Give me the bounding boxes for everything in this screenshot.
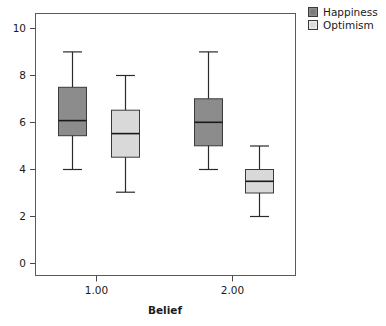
x-axis-tick-labels: 1.00 2.00 xyxy=(85,284,244,296)
chart-canvas: 10 8 6 4 2 0 1.00 2.00 Belief xyxy=(0,0,386,326)
x-tick-label-1: 1.00 xyxy=(85,284,108,296)
legend-swatch-inner-optimism xyxy=(311,23,316,28)
legend-item-optimism[interactable]: Optimism xyxy=(309,19,374,31)
legend: Happiness Optimism xyxy=(309,6,378,31)
legend-swatch-inner-happiness xyxy=(311,10,316,15)
y-tick-label-8: 8 xyxy=(19,69,26,81)
plot-area-frame xyxy=(36,14,296,276)
y-tick-label-4: 4 xyxy=(19,163,26,175)
x-axis-title: Belief xyxy=(148,304,182,316)
x-tick-label-2: 2.00 xyxy=(221,284,244,296)
y-tick-label-6: 6 xyxy=(19,116,26,128)
legend-label-optimism: Optimism xyxy=(323,19,374,31)
y-tick-label-2: 2 xyxy=(19,210,26,222)
y-axis-ticks xyxy=(30,29,36,264)
legend-item-happiness[interactable]: Happiness xyxy=(309,6,378,18)
y-tick-label-0: 0 xyxy=(19,257,26,269)
legend-label-happiness: Happiness xyxy=(323,6,378,18)
x-axis-ticks xyxy=(97,276,233,282)
box-plot-chart: 10 8 6 4 2 0 1.00 2.00 Belief xyxy=(0,0,386,326)
y-tick-label-10: 10 xyxy=(13,22,26,34)
y-axis-tick-labels: 10 8 6 4 2 0 xyxy=(13,22,27,269)
box-iqr xyxy=(59,87,87,135)
